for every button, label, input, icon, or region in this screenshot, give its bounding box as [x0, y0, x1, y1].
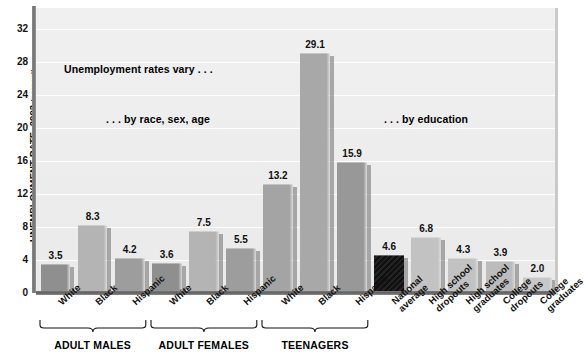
y-tick-16: 16	[4, 155, 28, 166]
gridline-16	[36, 161, 555, 162]
bar-top-edge	[374, 255, 404, 256]
bar-top-edge	[448, 258, 478, 259]
bar-value-label-5: 5.5	[220, 234, 262, 245]
bar-4[interactable]	[189, 231, 219, 293]
bar-top-edge	[41, 264, 71, 265]
bar-fill	[78, 225, 108, 293]
bar-8[interactable]	[337, 162, 367, 293]
y-tick-0: 0	[4, 287, 28, 298]
bar-value-label-13: 2.0	[517, 263, 559, 274]
bar-top-edge	[226, 248, 256, 249]
bar-drop-shadow	[293, 187, 297, 293]
y-tick-4: 4	[4, 254, 28, 265]
bar-top-edge	[486, 261, 516, 262]
y-tick-8: 8	[4, 221, 28, 232]
bar-value-label-4: 7.5	[183, 217, 225, 228]
bar-top-edge	[300, 53, 330, 54]
bar-value-label-11: 4.3	[442, 244, 484, 255]
brace-1	[150, 320, 258, 333]
bar-value-label-12: 3.9	[480, 247, 522, 258]
bar-top-edge	[152, 263, 182, 264]
y-tick-28: 28	[4, 56, 28, 67]
y-tick-12: 12	[4, 188, 28, 199]
brace-0	[39, 320, 147, 333]
y-tick-24: 24	[4, 89, 28, 100]
bar-value-label-7: 29.1	[294, 39, 336, 50]
bar-value-label-10: 6.8	[405, 223, 447, 234]
bar-1[interactable]	[78, 225, 108, 293]
gridline-20	[36, 128, 555, 129]
bar-fill	[115, 258, 145, 293]
brace-2	[261, 320, 369, 333]
bar-fill	[337, 162, 367, 293]
bar-value-label-0: 3.5	[35, 250, 77, 261]
annotation-education: . . . by education	[384, 113, 468, 125]
bar-fill	[189, 231, 219, 293]
group-label-2: TEENAGERS	[241, 339, 389, 351]
bar-value-label-9: 4.6	[368, 241, 410, 252]
gridline-24	[36, 95, 555, 96]
bar-drop-shadow	[367, 165, 371, 293]
bar-drop-shadow	[330, 56, 334, 293]
bar-value-label-2: 4.2	[109, 244, 151, 255]
y-tick-32: 32	[4, 23, 28, 34]
bar-7[interactable]	[300, 53, 330, 293]
bar-top-edge	[337, 162, 367, 163]
y-tick-20: 20	[4, 122, 28, 133]
bar-value-label-8: 15.9	[331, 148, 373, 159]
bar-top-edge	[115, 258, 145, 259]
gridline-32	[36, 29, 555, 30]
bar-top-edge	[411, 237, 441, 238]
bar-top-edge	[78, 225, 108, 226]
bar-value-label-3: 3.6	[146, 249, 188, 260]
bar-2[interactable]	[115, 258, 145, 293]
bar-value-label-1: 8.3	[72, 211, 114, 222]
bar-5[interactable]	[226, 248, 256, 293]
bar-fill	[226, 248, 256, 293]
bar-fill	[300, 53, 330, 293]
bar-top-edge	[189, 231, 219, 232]
bar-value-label-6: 13.2	[257, 170, 299, 181]
bar-top-edge	[263, 184, 293, 185]
plot-right-edge	[555, 8, 558, 295]
annotation-vary: Unemployment rates vary . . .	[64, 63, 213, 75]
annotation-race-sex-age: . . . by race, sex, age	[106, 113, 210, 125]
